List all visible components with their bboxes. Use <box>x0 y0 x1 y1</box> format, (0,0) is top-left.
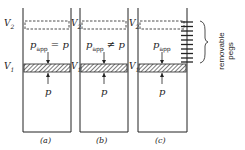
panel-c <box>138 8 208 132</box>
caption-b: (b) <box>96 136 107 145</box>
brace-icon <box>200 21 208 63</box>
v2-label-c: V2 <box>129 18 139 30</box>
v2-position-b <box>82 21 126 29</box>
panel-b <box>80 8 128 132</box>
v2-position-c <box>140 21 184 29</box>
piston-c <box>139 64 186 72</box>
caption-a: (a) <box>40 136 51 145</box>
v1-label-b: V1 <box>71 61 81 73</box>
piston-diagram <box>0 0 245 150</box>
p-label-c: p <box>159 86 165 97</box>
v2-label-a: V2 <box>4 18 14 30</box>
panel-a <box>23 8 71 132</box>
papp-label-c: papp <box>153 39 171 52</box>
caption-c: (c) <box>155 136 166 145</box>
piston-b <box>81 64 127 72</box>
p-label-a: p <box>45 86 51 97</box>
v1-label-a: V1 <box>4 61 14 73</box>
p-label-b: p <box>101 86 107 97</box>
v2-position-a <box>25 21 69 29</box>
papp-label-a: papp = p <box>30 39 69 52</box>
piston-a <box>24 64 70 72</box>
removable-pegs-label: removable pegs <box>217 29 235 73</box>
v1-label-c: V1 <box>129 61 139 73</box>
v2-label-b: V2 <box>71 18 81 30</box>
papp-label-b: papp ≠ p <box>86 39 125 52</box>
